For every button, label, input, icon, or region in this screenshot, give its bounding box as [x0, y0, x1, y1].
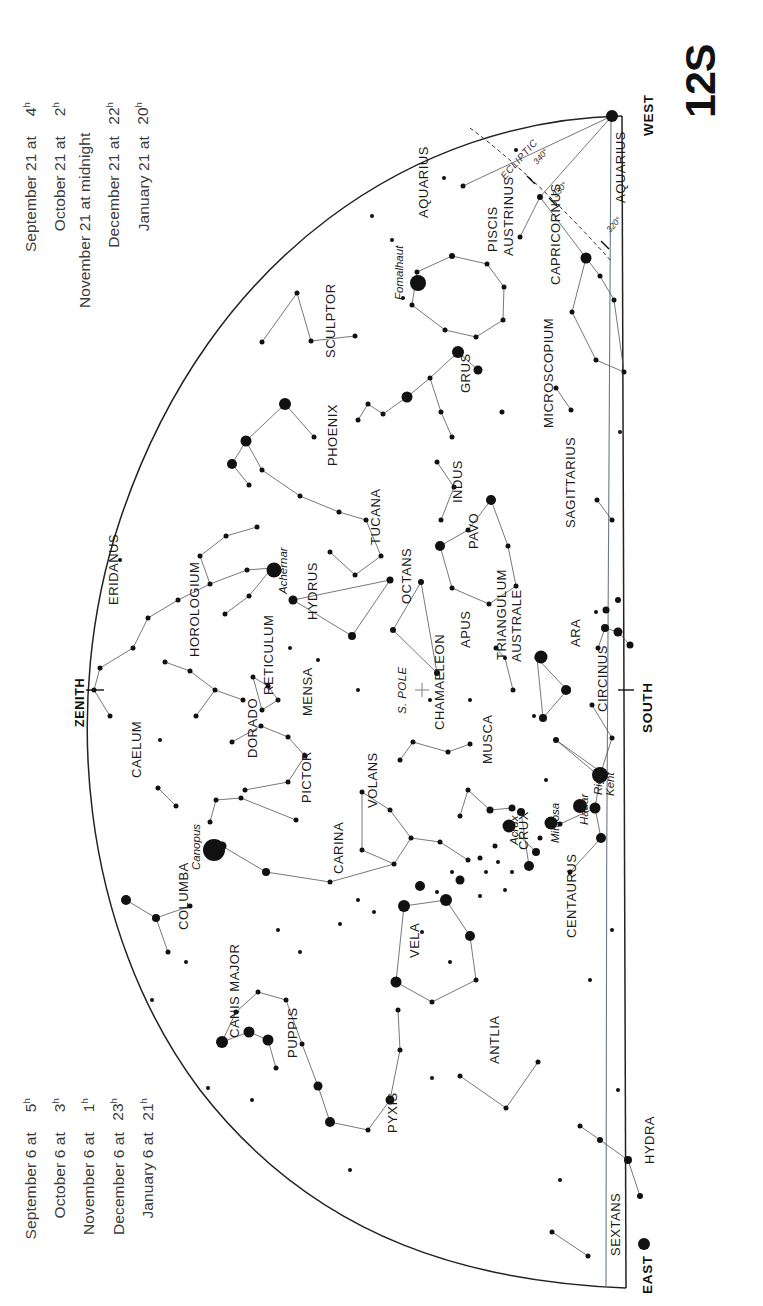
svg-text:MICROSCOPIUM: MICROSCOPIUM: [541, 318, 556, 428]
svg-text:HOROLOGIUM: HOROLOGIUM: [187, 562, 202, 657]
svg-text:ANTLIA: ANTLIA: [487, 1015, 502, 1064]
caption-line: November 6 at1h: [72, 1098, 101, 1292]
visibility-times-bottom: September 6 at5h October 6 at3h November…: [14, 1098, 160, 1292]
caption-line: September 6 at5h: [14, 1098, 43, 1292]
svg-text:OCTANS: OCTANS: [399, 548, 414, 604]
svg-text:AUSTRALE: AUSTRALE: [509, 589, 524, 662]
caption-line: November 21 at midnight: [72, 102, 97, 308]
svg-text:SCULPTOR: SCULPTOR: [323, 283, 338, 358]
svg-text:COLUMBA: COLUMBA: [176, 862, 191, 930]
svg-text:320°: 320°: [604, 214, 624, 234]
svg-text:Achernar: Achernar: [277, 546, 289, 595]
svg-text:ERIDANUS: ERIDANUS: [106, 534, 121, 605]
svg-text:CHAMAELEON: CHAMAELEON: [432, 634, 447, 730]
svg-text:TRIANGULUM: TRIANGULUM: [494, 569, 509, 660]
cardinal-label-west: WEST: [641, 94, 656, 136]
svg-text:CAELUM: CAELUM: [129, 721, 144, 778]
svg-text:CARINA: CARINA: [331, 822, 346, 874]
svg-text:Kent: Kent: [604, 772, 616, 796]
visibility-times-top: September 21 at4h October 21 at2h Novemb…: [14, 102, 156, 308]
svg-text:MUSCA: MUSCA: [480, 715, 495, 764]
svg-text:TUCANA: TUCANA: [368, 489, 383, 545]
svg-text:INDUS: INDUS: [450, 460, 465, 503]
svg-text:CANIS MAJOR: CANIS MAJOR: [227, 944, 242, 1038]
stars: [92, 110, 651, 1259]
svg-text:Fomalhaut: Fomalhaut: [393, 245, 405, 300]
constellation-labels: AQUARIUS AQUARIUS PISCIS AUSTRINUS CAPRI…: [106, 131, 657, 1256]
svg-text:ARA: ARA: [568, 619, 583, 647]
svg-text:PICTOR: PICTOR: [299, 751, 314, 803]
svg-text:PYXIS: PYXIS: [385, 1092, 400, 1133]
svg-text:APUS: APUS: [458, 611, 473, 648]
svg-text:Canopus: Canopus: [190, 824, 202, 870]
svg-text:VELA: VELA: [407, 923, 422, 958]
caption-line: December 6 at23h: [101, 1098, 130, 1292]
caption-line: December 21 at22h: [97, 102, 126, 308]
svg-text:PAVO: PAVO: [466, 513, 481, 549]
cardinal-label-south: SOUTH: [640, 682, 655, 733]
svg-text:VOLANS: VOLANS: [365, 752, 380, 808]
svg-text:CENTAURUS: CENTAURUS: [564, 854, 579, 938]
chart-number: 12S: [676, 44, 725, 118]
svg-text:Rigil: Rigil: [592, 772, 604, 795]
zenith-label: ZENITH: [73, 678, 87, 727]
svg-text:PHOENIX: PHOENIX: [325, 404, 340, 466]
constellation-lines: [94, 116, 640, 1256]
svg-text:Acrux: Acrux: [508, 814, 520, 846]
caption-line: September 21 at4h: [14, 102, 43, 308]
svg-text:PUPPIS: PUPPIS: [285, 1007, 300, 1058]
svg-text:PISCIS: PISCIS: [485, 206, 500, 252]
horizon-arc: [87, 116, 626, 1288]
caption-line: October 6 at3h: [43, 1098, 72, 1292]
svg-text:AQUARIUS: AQUARIUS: [416, 146, 431, 218]
caption-line: January 21 at20h: [126, 102, 155, 308]
svg-text:AQUARIUS: AQUARIUS: [613, 131, 628, 203]
horizon-baseline: [622, 116, 626, 1288]
svg-text:CAPRICORNUS: CAPRICORNUS: [548, 183, 563, 285]
svg-text:SAGITTARIUS: SAGITTARIUS: [563, 437, 578, 528]
svg-text:Mimosa: Mimosa: [549, 803, 561, 843]
svg-text:GRUS: GRUS: [458, 353, 473, 393]
svg-text:SEXTANS: SEXTANS: [608, 1193, 623, 1256]
south-pole-marker: [415, 683, 429, 697]
cardinal-label-east: EAST: [640, 1255, 655, 1294]
svg-text:AUSTRINUS: AUSTRINUS: [501, 176, 516, 256]
caption-line: January 6 at21h: [131, 1098, 160, 1292]
svg-text:Hadar: Hadar: [578, 793, 590, 825]
svg-text:MENSA: MENSA: [300, 667, 315, 716]
svg-text:HYDRUS: HYDRUS: [305, 562, 320, 620]
caption-line: October 21 at2h: [43, 102, 72, 308]
svg-text:S. POLE: S. POLE: [396, 666, 408, 714]
svg-text:CIRCINUS: CIRCINUS: [595, 645, 610, 712]
svg-text:DORADO: DORADO: [245, 698, 260, 758]
svg-text:RETICULUM: RETICULUM: [261, 615, 276, 695]
svg-text:HYDRA: HYDRA: [642, 1116, 657, 1164]
